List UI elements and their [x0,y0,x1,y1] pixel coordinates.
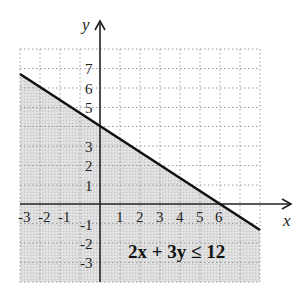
svg-text:5: 5 [196,209,204,225]
svg-text:3: 3 [156,209,164,225]
svg-text:-2: -2 [80,236,93,252]
svg-text:-1: -1 [80,217,93,233]
svg-text:2: 2 [85,158,93,174]
svg-text:1: 1 [85,178,93,194]
svg-text:-3: -3 [80,255,93,271]
svg-text:6: 6 [85,81,93,97]
y-axis-label: y [80,15,90,34]
svg-text:2: 2 [136,209,144,225]
svg-text:6: 6 [215,209,223,225]
svg-text:-3: -3 [18,209,31,225]
svg-text:3: 3 [85,139,93,155]
inequality-graph: y x -3 -2 -1 1 2 3 4 5 6 7 6 5 3 2 1 -1 … [0,0,308,303]
svg-text:-2: -2 [38,209,51,225]
svg-text:1: 1 [116,209,124,225]
inequality-label: 2x + 3y ≤ 12 [128,241,225,262]
svg-text:4: 4 [176,209,184,225]
svg-text:-1: -1 [58,209,71,225]
svg-text:7: 7 [85,61,93,77]
svg-text:5: 5 [85,100,93,116]
x-axis-label: x [282,211,291,230]
